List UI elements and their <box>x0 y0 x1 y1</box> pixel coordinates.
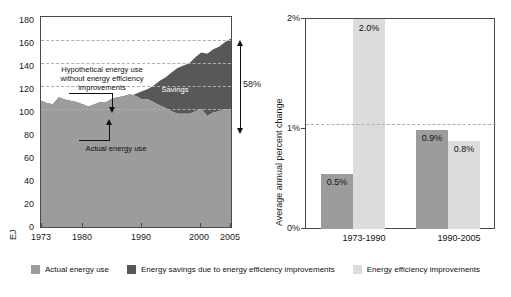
left-ytick-40: 40 <box>8 177 34 186</box>
left-xtick-1973: 1973 <box>28 233 54 242</box>
left-area-plot <box>41 17 231 227</box>
bracket-arrowhead-top-icon <box>237 40 243 46</box>
legend-item-actual-energy-use: Actual energy use <box>31 265 109 274</box>
left-ytick-120: 120 <box>8 85 34 94</box>
right-plot-area: 0.5% 2.0% 0.9% 0.8% <box>305 18 495 229</box>
left-xtick-2000: 2000 <box>186 233 212 242</box>
bar-value-0-5: 0.5% <box>319 178 355 187</box>
right-y-axis-title: Average annual percent change <box>274 99 284 226</box>
annotation-hypothetical-arrowhead-icon <box>109 107 115 113</box>
bar-value-0-9: 0.9% <box>414 134 450 143</box>
legend-item-energy-savings: Energy savings due to energy efficiency … <box>127 265 335 274</box>
left-xtick-mark-2000 <box>200 223 201 227</box>
annotation-actual-leader-horizontal <box>79 140 110 141</box>
bar-energy-efficiency-improvements-1990-2005[interactable] <box>448 141 480 229</box>
annotation-actual-arrowhead-icon <box>106 119 112 125</box>
bracket-arrowhead-bottom-icon <box>237 128 243 134</box>
left-xtick-2005: 2005 <box>217 233 243 242</box>
left-xtick-1980: 1980 <box>69 233 95 242</box>
bar-value-0-8: 0.8% <box>446 145 482 154</box>
bracket-arrow-line <box>240 43 241 131</box>
left-area-chart-panel: 180 160 140 120 100 80 60 40 20 0 EJ <box>0 0 258 258</box>
left-plot-area: Hypothetical energy use without energy e… <box>40 16 232 228</box>
left-ytick-80: 80 <box>8 131 34 140</box>
left-xtick-mark-2005 <box>230 223 231 227</box>
left-ytick-180: 180 <box>8 16 34 25</box>
left-gridline-140 <box>41 63 231 64</box>
annotation-savings: Savings <box>154 85 196 94</box>
right-xtick-1990-2005: 1990-2005 <box>427 234 491 243</box>
figure-root: 180 160 140 120 100 80 60 40 20 0 EJ <box>0 0 511 297</box>
annotation-actual-leader-vertical <box>109 125 110 141</box>
left-ytick-140: 140 <box>8 62 34 71</box>
left-xtick-mark-1980 <box>82 223 83 227</box>
annotation-actual-energy-use: Actual energy use <box>69 144 163 153</box>
left-xtick-mark-1973 <box>41 223 42 227</box>
left-y-axis-title: EJ <box>8 229 18 240</box>
right-ytick-2pct: 2% <box>280 14 300 23</box>
left-gridline-100 <box>41 109 231 110</box>
legend-label-actual-energy-use: Actual energy use <box>45 265 109 274</box>
annotation-hypothetical-line1: Hypothetical energy use <box>44 65 160 74</box>
bar-value-2-0: 2.0% <box>351 24 387 33</box>
actual-energy-use-area <box>41 94 231 227</box>
legend-swatch-energy-efficiency-improvements <box>353 265 362 274</box>
left-ytick-160: 160 <box>8 39 34 48</box>
legend-label-energy-savings: Energy savings due to energy efficiency … <box>141 265 335 274</box>
right-xtick-1973-1990: 1973-1990 <box>332 234 396 243</box>
right-ytick-0pct: 0% <box>280 224 300 233</box>
left-gridline-160 <box>41 40 231 41</box>
left-ytick-60: 60 <box>8 154 34 163</box>
left-xtick-mark-1990 <box>141 223 142 227</box>
legend-label-energy-efficiency-improvements: Energy efficiency improvements <box>367 265 480 274</box>
right-bar-chart-panel: Average annual percent change 2% 1% 0% 0… <box>258 0 511 258</box>
legend-item-energy-efficiency-improvements: Energy efficiency improvements <box>353 265 480 274</box>
left-xtick-1990: 1990 <box>128 233 154 242</box>
annotation-hypothetical-leader-horizontal <box>69 93 113 94</box>
right-gridline-1pct <box>306 124 496 125</box>
annotation-hypothetical-line3: improvements <box>44 83 160 92</box>
legend-swatch-energy-savings <box>127 265 136 274</box>
left-ytick-100: 100 <box>8 108 34 117</box>
left-ytick-20: 20 <box>8 200 34 209</box>
bar-actual-energy-use-1990-2005[interactable] <box>416 130 448 229</box>
annotation-hypothetical-line2: without energy efficiency <box>44 74 160 83</box>
right-ytick-1pct: 1% <box>280 124 300 133</box>
legend: Actual energy use Energy savings due to … <box>0 258 511 280</box>
legend-swatch-actual-energy-use <box>31 265 40 274</box>
